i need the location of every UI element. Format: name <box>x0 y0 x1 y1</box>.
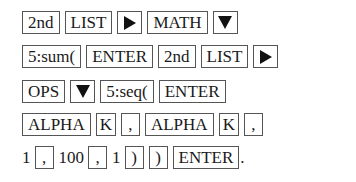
key-enter: ENTER <box>159 80 226 103</box>
key-k: K <box>219 113 239 136</box>
typed-number: 1 <box>22 149 31 166</box>
key-right-arrow <box>117 11 142 34</box>
key-2nd: 2nd <box>158 45 196 68</box>
key-comma: , <box>35 146 54 169</box>
right-arrow-icon <box>124 16 136 30</box>
key-seq: 5:seq( <box>100 80 154 103</box>
keystroke-row-1: 2nd LIST MATH <box>22 11 243 34</box>
key-alpha: ALPHA <box>145 113 214 136</box>
typed-number: 1 <box>112 149 121 166</box>
key-list: LIST <box>65 11 113 34</box>
key-ops: OPS <box>22 80 65 103</box>
key-2nd: 2nd <box>22 11 60 34</box>
down-arrow-icon <box>218 16 232 29</box>
key-close-paren: ) <box>149 146 168 169</box>
keystroke-row-5: 1 , 100 , 1 ) ) ENTER . <box>22 146 245 169</box>
key-enter: ENTER <box>86 45 153 68</box>
key-right-arrow <box>253 45 278 68</box>
key-comma: , <box>244 113 263 136</box>
key-k: K <box>96 113 116 136</box>
key-enter: ENTER <box>173 146 240 169</box>
keystroke-row-4: ALPHA K , ALPHA K , <box>22 113 268 136</box>
typed-number: 100 <box>59 149 85 166</box>
key-list: LIST <box>201 45 249 68</box>
key-down-arrow <box>213 11 238 34</box>
key-alpha: ALPHA <box>22 113 91 136</box>
keystroke-row-2: 5:sum( ENTER 2nd LIST <box>22 45 283 68</box>
key-sum: 5:sum( <box>22 45 81 68</box>
key-close-paren: ) <box>125 146 144 169</box>
key-down-arrow <box>70 80 95 103</box>
sentence-period: . <box>240 148 244 168</box>
keystroke-row-3: OPS 5:seq( ENTER <box>22 80 231 103</box>
key-comma: , <box>88 146 107 169</box>
key-comma: , <box>121 113 140 136</box>
right-arrow-icon <box>260 50 272 64</box>
down-arrow-icon <box>76 85 90 98</box>
key-math: MATH <box>147 11 207 34</box>
